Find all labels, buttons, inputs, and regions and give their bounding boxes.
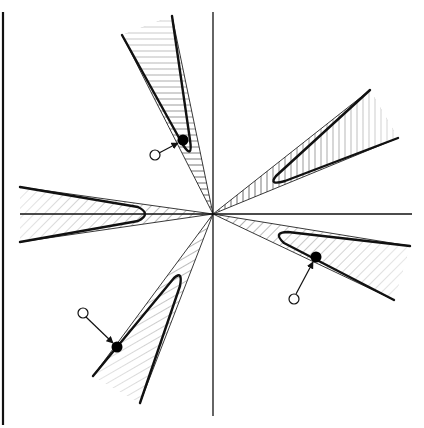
filled-point <box>178 135 189 146</box>
open-point <box>78 308 88 318</box>
axes <box>20 12 412 416</box>
projection-arrow <box>296 262 313 294</box>
open-point <box>150 150 160 160</box>
hatched-cones <box>20 16 410 403</box>
filled-point <box>112 342 123 353</box>
filled-point <box>311 252 322 263</box>
diagram-canvas <box>0 0 424 428</box>
projection-arrow <box>86 317 113 343</box>
diagram-svg <box>0 0 424 428</box>
projection-arrow <box>159 143 178 153</box>
projection-lower-left <box>78 308 123 353</box>
open-point <box>289 294 299 304</box>
projection-right <box>289 252 322 305</box>
